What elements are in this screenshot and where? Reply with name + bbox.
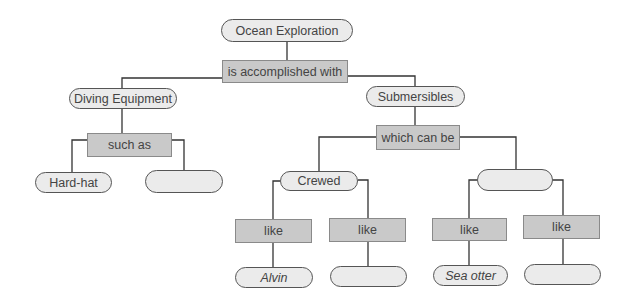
node-alvin: Alvin xyxy=(235,267,313,288)
link-like-2: like xyxy=(329,218,406,242)
node-blank-uncrewed-example xyxy=(524,264,601,285)
node-ocean-exploration: Ocean Exploration xyxy=(221,19,353,42)
link-which-can-be: which can be xyxy=(376,125,460,150)
link-like-1: like xyxy=(235,219,312,243)
link-is-accomplished-with: is accomplished with xyxy=(222,60,348,83)
node-submersibles: Submersibles xyxy=(366,86,465,107)
node-crewed: Crewed xyxy=(280,171,358,191)
node-blank-crewed-example xyxy=(330,266,407,287)
node-diving-equipment: Diving Equipment xyxy=(69,88,177,109)
link-such-as: such as xyxy=(87,133,172,157)
link-like-4: like xyxy=(523,215,600,239)
node-sea-otter: Sea otter xyxy=(433,265,508,286)
node-blank-submersible-type xyxy=(477,169,553,191)
node-hard-hat: Hard-hat xyxy=(35,172,112,193)
link-like-3: like xyxy=(432,218,507,241)
node-blank-diving-example xyxy=(145,170,223,193)
